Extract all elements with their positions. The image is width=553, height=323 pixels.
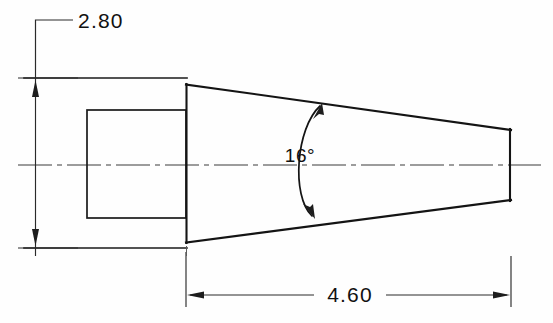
rectangular-bore [87, 110, 186, 218]
tapered-body-outline [186, 84, 511, 243]
drawing-canvas: 16° 2.80 [0, 0, 553, 323]
length-dimension-label: 4.60 [327, 283, 373, 306]
height-dimension-2-80 [18, 20, 78, 256]
engineering-drawing-sheet: 16° 2.80 [0, 0, 553, 323]
left-block-outline [24, 78, 187, 248]
angle-annotation-label: 16° [285, 145, 316, 166]
height-dimension-label: 2.80 [78, 9, 124, 32]
